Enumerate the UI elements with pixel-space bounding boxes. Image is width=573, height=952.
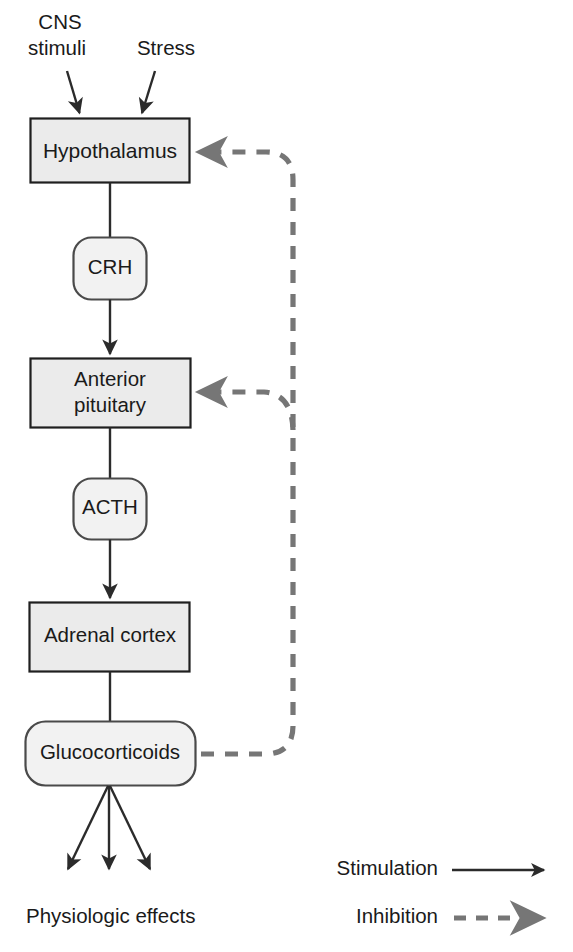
glucocorticoids-label: Glucocorticoids xyxy=(40,740,180,763)
edge-stress-to-hypothalamus xyxy=(142,71,155,113)
legend-inhibition-label: Inhibition xyxy=(356,904,438,927)
legend-item-inhibition: Inhibition xyxy=(356,904,542,927)
hypothalamus-label: Hypothalamus xyxy=(43,139,177,162)
legend-stimulation-label: Stimulation xyxy=(337,856,438,879)
hpa-axis-diagram: CNS stimuli Stress Hypothalamus CRH Ante… xyxy=(0,0,573,952)
input-stress: Stress xyxy=(137,36,195,59)
legend-item-stimulation: Stimulation xyxy=(337,856,544,879)
crh-label: CRH xyxy=(88,255,132,278)
edge-cns-to-hypothalamus xyxy=(67,71,80,113)
node-anterior-pituitary[interactable]: Anterior pituitary xyxy=(31,359,191,428)
anterior-pituitary-label-line2: pituitary xyxy=(74,393,147,416)
node-adrenal-cortex[interactable]: Adrenal cortex xyxy=(30,603,190,672)
legend: Stimulation Inhibition xyxy=(337,856,544,927)
physiologic-effect-arrow-right xyxy=(110,786,150,869)
node-acth[interactable]: ACTH xyxy=(74,479,147,540)
cns-stimuli-label-line1: CNS xyxy=(38,10,81,33)
cns-stimuli-label-line2: stimuli xyxy=(28,36,86,59)
diagram-canvas: CNS stimuli Stress Hypothalamus CRH Ante… xyxy=(0,0,573,952)
node-hypothalamus[interactable]: Hypothalamus xyxy=(31,119,190,183)
edge-glucocorticoids-to-anterior-pituitary-inhibition xyxy=(199,392,293,430)
physiologic-effects-label: Physiologic effects xyxy=(26,904,195,927)
stress-label: Stress xyxy=(137,36,195,59)
physiologic-effect-arrow-left xyxy=(68,786,108,869)
anterior-pituitary-label-line1: Anterior xyxy=(74,367,146,390)
node-crh[interactable]: CRH xyxy=(74,238,147,300)
edge-glucocorticoids-to-hypothalamus-inhibition xyxy=(199,152,293,754)
input-cns-stimuli: CNS stimuli xyxy=(28,10,86,59)
adrenal-cortex-label: Adrenal cortex xyxy=(44,623,177,646)
node-glucocorticoids[interactable]: Glucocorticoids xyxy=(26,722,196,786)
edge-glucocorticoids-to-physiologic-effects xyxy=(68,786,150,869)
acth-label: ACTH xyxy=(82,495,138,518)
